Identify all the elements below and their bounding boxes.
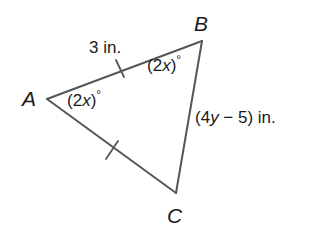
side-ac-line — [47, 99, 176, 193]
angle-measure-label-a: (2x)° — [67, 92, 101, 109]
angle-measure-label-b: (2x)° — [147, 57, 181, 74]
vertex-label-c: C — [167, 205, 182, 226]
side-ab-measure-text: 3 in. — [89, 38, 121, 57]
side-bc-measure-variable: y — [210, 108, 219, 127]
side-bc-measure-prefix: (4 — [195, 108, 210, 127]
side-bc-measure-suffix: − 5) in. — [219, 108, 276, 127]
angle-b-variable: x — [162, 56, 171, 75]
side-length-label-ab: 3 in. — [89, 39, 121, 56]
angle-b-prefix: (2 — [147, 56, 162, 75]
vertex-label-b: B — [194, 13, 208, 34]
angle-a-prefix: (2 — [67, 91, 82, 110]
geometry-figure: A B C 3 in. (4y − 5) in. (2x)° (2x)° — [0, 0, 314, 247]
side-length-label-bc: (4y − 5) in. — [195, 109, 276, 126]
degree-symbol-icon: ° — [96, 88, 101, 102]
vertex-label-a: A — [22, 88, 36, 109]
tick-mark-side-ab — [116, 60, 124, 77]
angle-a-variable: x — [82, 91, 91, 110]
degree-symbol-icon: ° — [176, 53, 181, 67]
